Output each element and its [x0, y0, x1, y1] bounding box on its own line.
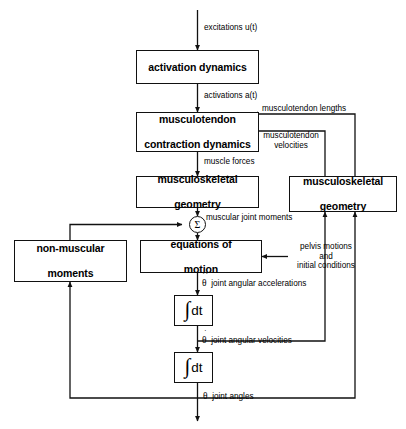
integral-icon: ∫	[184, 299, 190, 320]
wire-velocities-to-geometry	[198, 212, 326, 341]
theta-vel-dots: ·	[204, 329, 207, 333]
label-joint-angular-velocities-text: joint angular velocities	[211, 336, 292, 345]
label-musculotendon-lengths: musculotendon lengths	[262, 104, 346, 114]
block-contraction-dynamics-line1: musculotendon	[141, 113, 254, 126]
block-non-muscular-moments-line2: moments	[33, 267, 107, 280]
theta-double-dot-symbol: ··θ	[202, 278, 209, 288]
block-geometry-left-line1: musculoskeletal	[154, 173, 240, 186]
block-integrator-1[interactable]: ∫dt	[174, 295, 213, 326]
block-activation-dynamics-label: activation dynamics	[145, 61, 249, 74]
theta-symbol: θ	[203, 391, 208, 401]
label-muscle-forces: muscle forces	[204, 157, 255, 167]
theta-vel-glyph: θ	[202, 335, 207, 345]
label-musculotendon-velocities-line1: musculotendon	[263, 131, 319, 140]
theta-dot-symbol: ·θ	[202, 335, 209, 345]
label-joint-angular-velocities: ·θ joint angular velocities	[202, 336, 292, 346]
label-activations: activations a(t)	[204, 91, 257, 101]
theta-accel-dots: ··	[202, 272, 208, 276]
diagram-canvas: activation dynamics musculotendon contra…	[0, 0, 406, 429]
block-non-muscular-moments[interactable]: non-muscular moments	[14, 240, 127, 282]
label-joint-angles: θ joint angles	[203, 392, 254, 402]
label-pelvis-line2: and	[319, 252, 333, 261]
label-pelvis-line3: initial conditions	[297, 261, 355, 270]
theta-accel-glyph: θ	[202, 278, 207, 288]
label-joint-angular-accelerations: ··θ joint angular accelerations	[202, 279, 306, 289]
block-contraction-dynamics-line2: contraction dynamics	[141, 138, 254, 151]
label-muscular-joint-moments: muscular joint moments	[206, 213, 292, 223]
block-geometry-left-line2: geometry	[154, 198, 240, 211]
block-musculoskeletal-geometry-left[interactable]: musculoskeletal geometry	[136, 176, 259, 208]
sigma-icon: Σ	[195, 219, 201, 230]
label-pelvis-line1: pelvis motions	[300, 242, 352, 251]
label-musculotendon-velocities: musculotendon velocities	[258, 131, 324, 150]
label-musculotendon-velocities-line2: velocities	[274, 141, 308, 150]
block-equations-of-motion-line2: motion	[167, 263, 234, 276]
block-non-muscular-moments-line1: non-muscular	[33, 242, 107, 255]
block-equations-of-motion[interactable]: equations of motion	[140, 240, 262, 273]
label-excitations: excitations u(t)	[204, 23, 257, 33]
block-geometry-right-line2: geometry	[300, 200, 386, 213]
block-geometry-right-line1: musculoskeletal	[300, 175, 386, 188]
integrator-1-dt: dt	[191, 303, 202, 318]
summation-node[interactable]: Σ	[189, 216, 206, 233]
block-integrator-2[interactable]: ∫dt	[174, 352, 213, 383]
label-joint-angular-accelerations-text: joint angular accelerations	[211, 279, 306, 288]
block-musculoskeletal-geometry-right[interactable]: musculoskeletal geometry	[289, 176, 397, 212]
block-activation-dynamics[interactable]: activation dynamics	[136, 50, 259, 84]
label-pelvis-motions-initial-conditions: pelvis motions and initial conditions	[290, 242, 362, 271]
block-musculotendon-contraction-dynamics[interactable]: musculotendon contraction dynamics	[136, 112, 259, 152]
label-joint-angles-text: joint angles	[212, 392, 253, 401]
block-equations-of-motion-line1: equations of	[167, 238, 234, 251]
integral-icon: ∫	[184, 356, 190, 377]
integrator-2-dt: dt	[191, 360, 202, 375]
